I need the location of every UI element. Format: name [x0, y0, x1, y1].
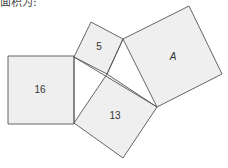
square-label: 16 — [34, 84, 46, 95]
square-label: 13 — [109, 110, 121, 121]
square-label: A — [169, 51, 177, 62]
pythagorean-diagram: 16513A — [0, 0, 228, 168]
square-label: 5 — [96, 41, 102, 52]
